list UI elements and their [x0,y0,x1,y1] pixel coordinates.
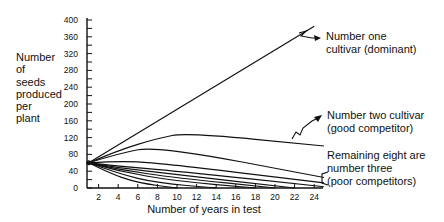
annotation-line: Remaining eight are [327,149,425,162]
y-tick-label: 240 [64,82,78,92]
x-tick-label: 24 [309,192,319,202]
axes [87,18,323,188]
annotation-line: Number two cultivar [327,109,424,122]
y-tick-label: 400 [64,15,78,25]
y-axis-title-line: of [16,63,62,75]
y-tick-label: 280 [64,65,78,75]
x-tick-labels: 24681012141618202224 [96,192,319,202]
series-line-2 [89,135,324,163]
annotation-line: number three [327,162,425,175]
y-tick-label: 0 [73,183,78,193]
x-tick-label: 8 [155,192,160,202]
annotation-line: (poor competitors) [327,175,425,188]
y-axis-title-line: produced [16,88,62,100]
annotation-line: cultivar (dominant) [326,43,416,56]
y-axis-title-line: Number [16,51,62,63]
x-tick-label: 4 [116,192,121,202]
y-tick-label: 360 [64,32,78,42]
y-tick-label: 80 [69,149,79,159]
series-line-4 [89,162,324,183]
y-axis-title-line: seeds [16,76,62,88]
y-tick-label: 320 [64,49,78,59]
x-tick-label: 16 [231,192,241,202]
annotation-arrows [292,31,328,185]
x-axis-title: Number of years in test [147,203,261,215]
x-tick-label: 14 [211,192,221,202]
y-tick-label: 160 [64,116,78,126]
origin-cluster [86,160,91,165]
y-axis-title: Number of seeds produced per plant [16,51,62,125]
annotation-line: (good competitor) [327,122,424,135]
y-tick-labels: 04080120160200240280320360400 [64,15,78,193]
annotation-line: Number one [326,30,416,43]
x-tick-label: 22 [290,192,300,202]
annotation-poor-competitors: Remaining eight are number three (poor c… [327,149,425,188]
x-tick-label: 6 [135,192,140,202]
x-tick-label: 12 [192,192,202,202]
annotation-good-competitor: Number two cultivar (good competitor) [327,109,424,135]
y-tick-label: 40 [69,166,79,176]
data-series [86,26,324,188]
y-axis-title-line: plant [16,112,62,124]
x-tick-label: 20 [270,192,280,202]
annotation-dominant: Number one cultivar (dominant) [326,30,416,56]
arrow-number-two-icon [292,118,318,139]
y-tick-label: 120 [64,133,78,143]
x-tick-label: 2 [96,192,101,202]
y-tick-label: 200 [64,99,78,109]
arrowhead-dominant-icon [314,35,321,41]
arrowhead-number-two-icon [314,115,322,122]
x-tick-label: 10 [172,192,182,202]
y-axis-title-line: per [16,100,62,112]
series-line-3 [89,149,324,177]
x-tick-label: 18 [251,192,261,202]
